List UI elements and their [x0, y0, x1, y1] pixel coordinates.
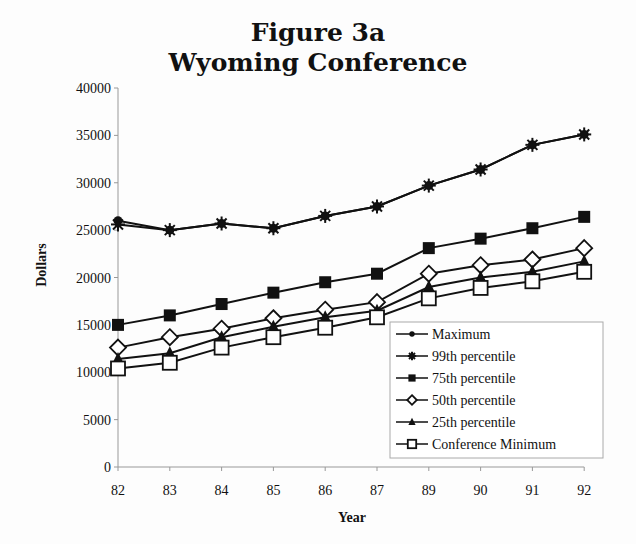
- legend-label: 75th percentile: [432, 371, 516, 386]
- open-square-marker-icon: [318, 321, 332, 335]
- y-tick-label: 0: [104, 460, 111, 475]
- star-marker-icon: [266, 221, 280, 235]
- open-square-marker-icon: [525, 274, 539, 288]
- series-line: [118, 134, 584, 230]
- star-marker-icon: [111, 217, 125, 231]
- y-axis-title: Dollars: [34, 243, 49, 287]
- star-marker-icon: [422, 179, 436, 193]
- star-marker-icon: [215, 216, 229, 230]
- y-tick-label: 15000: [76, 318, 111, 333]
- open-square-marker-icon: [111, 361, 125, 375]
- open-square-marker-icon: [408, 440, 416, 448]
- y-tick-label: 25000: [76, 223, 111, 238]
- open-square-marker-icon: [422, 291, 436, 305]
- line-chart: 0500010000150002000025000300003500040000…: [0, 0, 636, 544]
- legend-label: Maximum: [432, 327, 490, 342]
- open-square-marker-icon: [370, 310, 384, 324]
- legend-label: Conference Minimum: [432, 437, 556, 452]
- filled-square-marker-icon: [578, 211, 590, 223]
- star-marker-icon: [474, 162, 488, 176]
- filled-square-marker-icon: [526, 222, 538, 234]
- filled-square-marker-icon: [112, 319, 124, 331]
- open-diamond-marker-icon: [576, 240, 592, 256]
- filled-circle-marker-icon: [409, 331, 414, 336]
- y-tick-label: 10000: [76, 365, 111, 380]
- series-line: [118, 134, 584, 230]
- series-line: [118, 217, 584, 325]
- x-tick-label: 84: [215, 483, 229, 498]
- y-tick-label: 40000: [76, 81, 111, 96]
- open-square-marker-icon: [474, 281, 488, 295]
- x-tick-label: 82: [111, 483, 125, 498]
- star-marker-icon: [577, 127, 591, 141]
- x-tick-label: 89: [422, 483, 436, 498]
- x-tick-label: 91: [525, 483, 539, 498]
- x-tick-label: 86: [318, 483, 332, 498]
- legend: Maximum99th percentile75th percentile50t…: [390, 322, 603, 458]
- x-axis-title: Year: [338, 510, 366, 525]
- x-tick-label: 92: [577, 483, 591, 498]
- filled-square-marker-icon: [267, 287, 279, 299]
- filled-square-marker-icon: [423, 242, 435, 254]
- filled-square-marker-icon: [408, 374, 415, 381]
- filled-square-marker-icon: [319, 276, 331, 288]
- star-marker-icon: [318, 209, 332, 223]
- open-diamond-marker-icon: [421, 266, 437, 282]
- legend-label: 25th percentile: [432, 415, 516, 430]
- star-marker-icon: [163, 223, 177, 237]
- open-square-marker-icon: [577, 265, 591, 279]
- open-diamond-marker-icon: [162, 329, 178, 345]
- star-marker-icon: [408, 352, 416, 360]
- x-tick-label: 87: [370, 483, 384, 498]
- star-marker-icon: [370, 199, 384, 213]
- x-tick-label: 90: [474, 483, 488, 498]
- filled-square-marker-icon: [216, 298, 228, 310]
- filled-square-marker-icon: [475, 233, 487, 245]
- filled-square-marker-icon: [164, 309, 176, 321]
- filled-square-marker-icon: [371, 268, 383, 280]
- y-tick-label: 30000: [76, 176, 111, 191]
- y-tick-label: 5000: [83, 413, 111, 428]
- x-tick-label: 83: [163, 483, 177, 498]
- open-square-marker-icon: [215, 341, 229, 355]
- y-tick-label: 20000: [76, 271, 111, 286]
- open-square-marker-icon: [266, 330, 280, 344]
- x-tick-label: 85: [266, 483, 280, 498]
- y-tick-label: 35000: [76, 128, 111, 143]
- open-square-marker-icon: [163, 356, 177, 370]
- legend-label: 50th percentile: [432, 393, 516, 408]
- legend-label: 99th percentile: [432, 349, 516, 364]
- star-marker-icon: [525, 138, 539, 152]
